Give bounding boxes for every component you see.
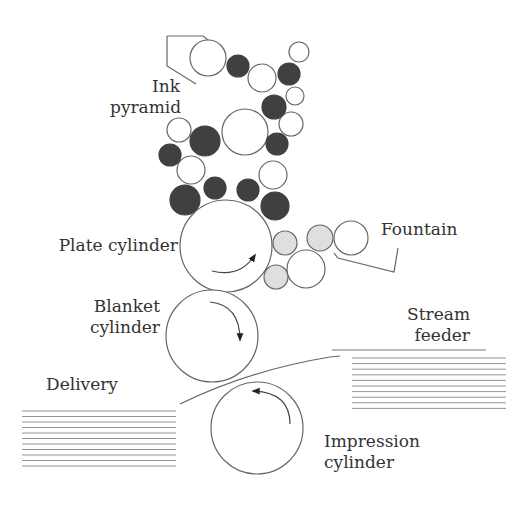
inked-roller (170, 185, 200, 215)
ink-roller (248, 64, 276, 92)
label-blanket-line2: cylinder (80, 317, 160, 338)
dampening-roller (307, 225, 333, 251)
inked-roller (278, 63, 300, 85)
inked-roller (159, 144, 181, 166)
label-stream-feeder-line2: feeder (390, 325, 470, 346)
plate-cylinder-circle (180, 200, 272, 292)
label-ink-pyramid-line2: pyramid (110, 97, 180, 118)
inked-roller (204, 177, 226, 199)
dampening-roller (264, 265, 288, 289)
delivery-paper-stack (22, 411, 176, 466)
impression-cylinder-circle (211, 382, 303, 474)
label-delivery: Delivery (46, 374, 118, 395)
inked-roller (190, 126, 220, 156)
blanket-cylinder-circle (166, 290, 258, 382)
label-plate-cylinder: Plate cylinder (30, 235, 178, 256)
offset-press-diagram: Ink pyramid Plate cylinder Blanket cylin… (0, 0, 528, 509)
ink-roller (167, 118, 191, 142)
label-impression-cylinder: Impression cylinder (324, 431, 420, 473)
ink-roller (259, 161, 287, 189)
label-stream-feeder: Stream feeder (390, 304, 470, 346)
dampening-roller (273, 231, 297, 255)
inked-roller (227, 55, 249, 77)
dampening-roller (287, 250, 325, 288)
label-blanket-line1: Blanket (80, 296, 160, 317)
inked-roller (237, 179, 259, 201)
label-blanket-cylinder: Blanket cylinder (80, 296, 160, 338)
label-ink-pyramid-line1: Ink (110, 76, 180, 97)
inked-roller (262, 95, 286, 119)
ink-roller (190, 40, 226, 76)
label-impression-line2: cylinder (324, 452, 420, 473)
ink-roller (289, 42, 309, 62)
ink-roller (177, 156, 205, 184)
label-stream-feeder-line1: Stream (390, 304, 470, 325)
ink-roller (286, 87, 304, 105)
label-fountain: Fountain (381, 219, 457, 240)
dampening-roller (334, 221, 368, 255)
inked-roller (261, 192, 289, 220)
label-ink-pyramid: Ink pyramid (110, 76, 180, 118)
label-impression-line1: Impression (324, 431, 420, 452)
inked-roller (266, 133, 288, 155)
stream-feeder-paper-stack (352, 358, 506, 408)
ink-roller (222, 109, 268, 155)
